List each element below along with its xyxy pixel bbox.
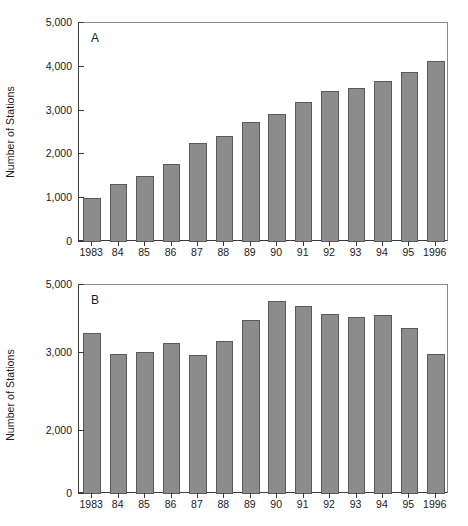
y-tick-label: 0 (0, 487, 72, 499)
x-tick-label: 87 (191, 498, 203, 510)
bar-93 (348, 88, 365, 242)
bar-92 (321, 91, 338, 242)
x-tick-label: 1983 (80, 246, 103, 258)
x-tick-label: 1996 (423, 498, 446, 510)
y-tick-mark (78, 197, 84, 198)
x-tick-label: 95 (403, 246, 415, 258)
x-tick-label: 1983 (80, 498, 103, 510)
bar-84 (110, 184, 127, 242)
x-tick-label: 89 (244, 498, 256, 510)
bar-1996 (427, 354, 444, 494)
bar-86 (163, 343, 180, 494)
y-tick-label: 3,000 (0, 346, 72, 358)
bar-93 (348, 317, 365, 494)
x-tick-label: 85 (138, 498, 150, 510)
bar-94 (374, 81, 391, 242)
x-tick-label: 92 (323, 498, 335, 510)
panel-a-plot-area: A (78, 22, 448, 241)
panel-a-y-axis-title: Number of Stations (0, 0, 20, 263)
y-tick-label: 2,000 (0, 147, 72, 159)
x-tick-label: 87 (191, 246, 203, 258)
y-tick-mark (78, 22, 84, 23)
y-tick-mark (78, 66, 84, 67)
x-tick-label: 89 (244, 246, 256, 258)
bar-95 (401, 72, 418, 242)
bar-88 (216, 136, 233, 242)
y-tick-mark (78, 153, 84, 154)
bar-91 (295, 306, 312, 494)
panel-b-label: B (91, 293, 99, 307)
bar-92 (321, 314, 338, 494)
x-tick-label: 94 (376, 498, 388, 510)
bar-84 (110, 354, 127, 494)
y-tick-label: 1,000 (0, 191, 72, 203)
bar-85 (136, 352, 153, 494)
bar-89 (242, 122, 259, 242)
bar-90 (268, 301, 285, 494)
figure-two-panel-bar-charts: Number of Stations A 01,0002,0003,0004,0… (0, 0, 468, 526)
y-tick-label: 2,000 (0, 424, 72, 436)
y-tick-mark (78, 493, 84, 494)
y-tick-mark (78, 430, 84, 431)
x-tick-label: 94 (376, 246, 388, 258)
y-tick-label: 5,000 (0, 16, 72, 28)
bar-86 (163, 164, 180, 242)
bar-87 (189, 143, 206, 242)
x-tick-label: 90 (270, 246, 282, 258)
bar-87 (189, 355, 206, 494)
y-tick-label: 5,000 (0, 278, 72, 290)
x-tick-label: 95 (403, 498, 415, 510)
x-tick-label: 1996 (423, 246, 446, 258)
x-tick-label: 90 (270, 498, 282, 510)
bar-90 (268, 114, 285, 242)
bar-1996 (427, 61, 444, 242)
x-tick-label: 91 (297, 246, 309, 258)
bar-85 (136, 176, 153, 242)
x-tick-label: 93 (350, 498, 362, 510)
x-tick-label: 88 (218, 498, 230, 510)
y-tick-mark (78, 284, 84, 285)
x-tick-label: 92 (323, 246, 335, 258)
x-tick-label: 85 (138, 246, 150, 258)
x-tick-label: 86 (165, 498, 177, 510)
bar-94 (374, 315, 391, 494)
bar-95 (401, 328, 418, 495)
bar-91 (295, 102, 312, 242)
x-tick-label: 84 (112, 498, 124, 510)
x-tick-label: 86 (165, 246, 177, 258)
panel-b: Number of Stations B 02,0003,0005,000 19… (0, 263, 468, 526)
panel-b-plot-area: B (78, 284, 448, 493)
x-tick-label: 93 (350, 246, 362, 258)
panel-a-label: A (91, 31, 99, 45)
panel-a: Number of Stations A 01,0002,0003,0004,0… (0, 0, 468, 263)
bar-88 (216, 341, 233, 494)
bar-1983 (83, 198, 100, 242)
y-tick-label: 3,000 (0, 104, 72, 116)
y-tick-mark (78, 241, 84, 242)
bar-89 (242, 320, 259, 494)
y-tick-mark (78, 110, 84, 111)
x-tick-label: 91 (297, 498, 309, 510)
y-tick-mark (78, 352, 84, 353)
y-tick-label: 0 (0, 235, 72, 247)
bar-1983 (83, 333, 100, 494)
x-tick-label: 88 (218, 246, 230, 258)
y-tick-label: 4,000 (0, 60, 72, 72)
x-tick-label: 84 (112, 246, 124, 258)
